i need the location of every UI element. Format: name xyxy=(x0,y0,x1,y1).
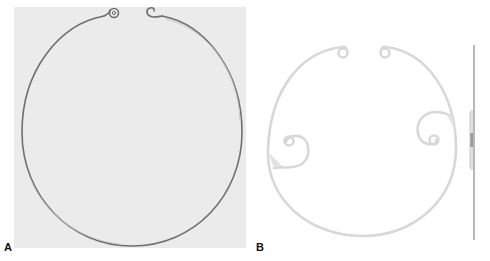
panel-b-side-profile xyxy=(470,45,474,240)
eyelet-top-right xyxy=(381,49,390,58)
panel-label-b: B xyxy=(256,241,264,253)
panel-label-a: A xyxy=(4,241,12,253)
panel-b-ring xyxy=(268,47,456,236)
haptic-right xyxy=(418,112,452,144)
figure-drawing xyxy=(0,0,490,261)
eyelet-left xyxy=(110,9,119,18)
eyelet-top-left xyxy=(339,49,348,58)
